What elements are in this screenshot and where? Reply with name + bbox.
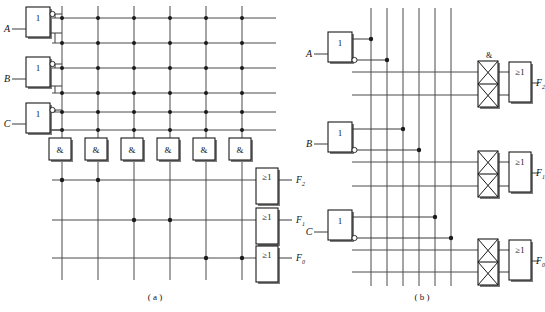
figure-canvas: 1 A 1 B 1 — [0, 0, 545, 312]
input-label-a: A — [3, 23, 11, 34]
or-gate-label: ≥1 — [516, 245, 525, 255]
connection-dot — [417, 148, 421, 152]
panel-b-or-gate-f2[interactable]: ≥1 F 2 — [509, 62, 545, 104]
and-gate[interactable]: & — [121, 138, 145, 162]
or-gate-f1[interactable]: ≥1 F 1 — [256, 208, 305, 246]
and-gate-label: & — [56, 145, 63, 155]
inverter-label-a: 1 — [36, 13, 41, 23]
or-gate-f0[interactable]: ≥1 F 0 — [256, 246, 305, 284]
output-subscript-f0: 0 — [302, 259, 305, 265]
output-label-f0: F — [535, 256, 542, 266]
and-gate[interactable]: & — [193, 138, 217, 162]
and-array-label: & — [486, 51, 493, 60]
panel-b-and-array-1[interactable]: & — [478, 51, 509, 109]
and-gate-label: & — [200, 145, 207, 155]
inverter-label-b: 1 — [338, 128, 343, 138]
input-label-a: A — [305, 48, 313, 59]
and-plane-dots — [60, 16, 244, 132]
panel-b-and-array-3[interactable] — [478, 239, 509, 287]
and-gate[interactable]: & — [49, 138, 73, 162]
and-gate[interactable]: & — [229, 138, 253, 162]
or-plane-dots — [60, 178, 244, 260]
caption-panel-b: ( b ) — [415, 292, 430, 302]
connection-dot — [369, 37, 373, 41]
output-label-f0: F — [295, 253, 302, 263]
connection-dot — [385, 58, 389, 62]
inverter-label-c: 1 — [338, 216, 343, 226]
inverter-label-a: 1 — [338, 38, 343, 48]
panel-b: 1 A 1 B 1 C — [305, 8, 545, 302]
panel-b-inverter-c[interactable]: 1 C — [306, 210, 454, 242]
or-gate-label: ≥1 — [263, 172, 272, 182]
output-label-f2: F — [295, 175, 302, 185]
input-label-c: C — [306, 226, 313, 237]
inverter-label-b: 1 — [36, 63, 41, 73]
or-plane-rows — [52, 180, 256, 258]
and-gate-label: & — [164, 145, 171, 155]
panel-a: 1 A 1 B 1 — [3, 6, 305, 302]
or-gate-f2[interactable]: ≥1 F 2 — [256, 168, 305, 206]
panel-b-inverter-b[interactable]: 1 B — [306, 122, 421, 154]
output-label-f1: F — [535, 168, 542, 178]
panel-b-inverter-a[interactable]: 1 A — [305, 32, 389, 64]
connection-dot — [401, 127, 405, 131]
panel-b-or-gate-f0[interactable]: ≥1 F 0 — [509, 240, 545, 282]
and-gate-label: & — [236, 145, 243, 155]
connection-dot — [449, 236, 453, 240]
input-label-b: B — [4, 73, 10, 84]
input-inverter-a[interactable]: 1 A — [3, 7, 62, 43]
panel-b-or-gate-f1[interactable]: ≥1 F 1 — [509, 152, 545, 194]
caption-panel-a: ( a ) — [148, 292, 163, 302]
panel-b-vertical-lines — [371, 8, 451, 286]
or-gate-label: ≥1 — [516, 67, 525, 77]
panel-b-and-array-2[interactable] — [478, 151, 509, 199]
output-subscript-f2: 2 — [302, 181, 305, 187]
and-gate[interactable]: & — [85, 138, 109, 162]
input-label-b: B — [306, 138, 312, 149]
output-label-f1: F — [295, 215, 302, 225]
output-label-f2: F — [535, 78, 542, 88]
and-gate-label: & — [128, 145, 135, 155]
output-subscript-f1: 1 — [302, 221, 305, 227]
or-gate-label: ≥1 — [516, 157, 525, 167]
inverter-label-c: 1 — [36, 109, 41, 119]
input-inverter-c[interactable]: 1 C — [4, 103, 62, 135]
connection-dot — [433, 215, 437, 219]
and-gate-label: & — [92, 145, 99, 155]
input-label-c: C — [4, 118, 11, 129]
and-gate-row: & & & & & — [49, 138, 253, 162]
or-gate-label: ≥1 — [263, 250, 272, 260]
and-gate[interactable]: & — [157, 138, 181, 162]
input-inverter-b[interactable]: 1 B — [4, 57, 62, 93]
or-gate-label: ≥1 — [263, 212, 272, 222]
